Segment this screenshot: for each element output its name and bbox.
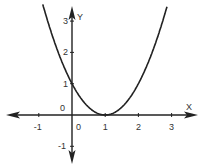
x-tick-label: -1 (34, 122, 42, 132)
y-tick-label: 0 (60, 103, 65, 113)
y-tick-label: -1 (58, 141, 66, 151)
chart-svg: -10123-10123 X Y (0, 0, 202, 167)
parabola-curve (43, 4, 167, 115)
ticks: -10123-10123 (34, 16, 174, 151)
x-tick-label: 0 (76, 122, 81, 132)
y-axis-label: Y (77, 12, 83, 22)
x-tick-label: 3 (169, 122, 174, 132)
x-tick-label: 2 (136, 122, 141, 132)
x-axis-label: X (186, 102, 192, 112)
parabola-chart: -10123-10123 X Y (0, 0, 202, 167)
axes (6, 6, 198, 164)
y-tick-label: 3 (63, 16, 68, 26)
y-tick-label: 2 (63, 47, 68, 57)
y-tick-label: 1 (63, 79, 68, 89)
x-tick-label: 1 (103, 122, 108, 132)
